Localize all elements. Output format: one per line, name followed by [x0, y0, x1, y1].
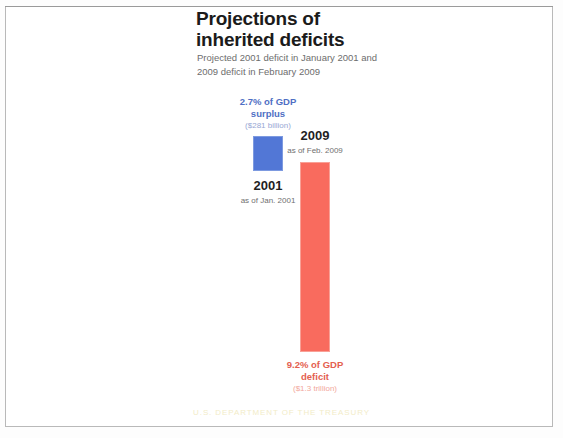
- surplus-2001-value-label: 2.7% of GDP surplus: [193, 96, 343, 119]
- column-group-2009: 2009 as of Feb. 2009 9.2% of GDP deficit…: [240, 128, 390, 394]
- slide-content: Projections of inherited deficits Projec…: [0, 0, 563, 438]
- treasury-footer: U.S. DEPARTMENT OF THE TREASURY: [0, 408, 563, 417]
- title-line-2: inherited deficits: [196, 29, 456, 50]
- deficit-2009-word: deficit: [240, 371, 390, 383]
- deficit-2009-amount: ($1.3 trillion): [240, 384, 390, 394]
- subtitle-line-2: 2009 deficit in February 2009: [197, 65, 447, 79]
- surplus-2001-percent: 2.7% of GDP: [193, 96, 343, 108]
- deficit-2009-value-label: 9.2% of GDP deficit: [240, 359, 390, 382]
- title-line-1: Projections of: [196, 8, 456, 29]
- bar-2009-deficit: [300, 162, 330, 352]
- page-title: Projections of inherited deficits: [196, 8, 456, 50]
- deficit-2009-percent: 9.2% of GDP: [240, 359, 390, 371]
- surplus-2001-word: surplus: [193, 108, 343, 120]
- scanned-page: Projections of inherited deficits Projec…: [0, 0, 563, 438]
- page-subtitle: Projected 2001 deficit in January 2001 a…: [197, 51, 447, 78]
- subtitle-line-1: Projected 2001 deficit in January 2001 a…: [197, 51, 447, 65]
- bar-2009-year-label: 2009: [240, 128, 390, 143]
- bar-2009-asof-label: as of Feb. 2009: [240, 146, 390, 155]
